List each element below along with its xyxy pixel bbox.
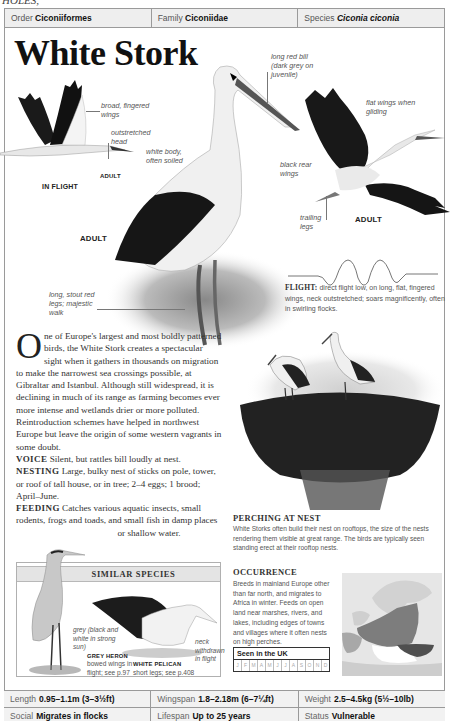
voice-text: Silent, but rattles bill loudly at nest. <box>50 454 181 464</box>
drop-cap: O <box>16 332 42 360</box>
month-cell: N <box>314 660 322 671</box>
caption-adult-standing: ADULT <box>80 234 107 243</box>
month-cell: F <box>242 660 250 671</box>
family-cell: Family Ciconiidae <box>152 9 299 27</box>
status-label: Status <box>305 711 329 721</box>
pelican-desc: short legs; see p.408 <box>133 668 213 677</box>
month-cell: A <box>258 660 266 671</box>
taxonomy-band: Order Ciconiiformes Family Ciconiidae Sp… <box>4 8 445 28</box>
stats-row: Length0.95–1.1m (3–3½ft) Wingspan1.8–2.1… <box>4 691 445 708</box>
lifespan-cell: LifespanUp to 25 years <box>151 708 298 721</box>
pelican-name: WHITE PELICAN <box>133 661 181 667</box>
leader-line <box>267 72 268 104</box>
top-cropped-text: HOLES, <box>0 0 459 7</box>
label-black-rear-wings: black rear wings <box>280 160 315 178</box>
stats-row: SocialMigrates in flocks LifespanUp to 2… <box>4 708 445 721</box>
species-cell: Species Ciconia ciconia <box>298 9 444 27</box>
pelican-note: neck withdrawn in flight <box>195 638 225 664</box>
month-cell: J <box>282 660 290 671</box>
weight-value: 2.5–4.5kg (5½–10lb) <box>334 694 414 704</box>
wingspan-label: Wingspan <box>157 694 195 704</box>
perching-text: White Storks often build their nest on r… <box>233 524 448 553</box>
month-cell: J <box>274 660 282 671</box>
grey-heron-illustration <box>25 545 85 675</box>
cropped-heading: HOLES, <box>2 0 39 6</box>
order-value: Ciconiiformes <box>35 13 92 23</box>
species-description: One of Europe's largest and most boldly … <box>16 330 222 539</box>
month-cell: O <box>306 660 314 671</box>
lifespan-value: Up to 25 years <box>192 711 250 721</box>
range-map <box>342 573 442 676</box>
species-value: Ciconia ciconia <box>337 13 399 23</box>
label-white-body: white body, often soiled <box>146 147 196 165</box>
month-cell: J <box>234 660 242 671</box>
length-label: Length <box>10 694 36 704</box>
caption-in-flight: IN FLIGHT <box>42 183 78 190</box>
wingspan-cell: Wingspan1.8–2.18m (6–7¼ft) <box>151 691 298 707</box>
wingspan-value: 1.8–2.18m (6–7¼ft) <box>198 694 274 704</box>
social-label: Social <box>10 711 33 721</box>
family-value: Ciconiidae <box>185 13 228 23</box>
flight-label: FLIGHT: <box>285 283 318 292</box>
family-label: Family <box>158 13 183 23</box>
perching-title: PERCHING AT NEST <box>233 513 321 523</box>
month-cell: D <box>322 660 329 671</box>
heron-note: grey (black and white in strong sun) <box>73 626 123 652</box>
order-cell: Order Ciconiiformes <box>5 9 152 27</box>
intro-paragraph: ne of Europe's largest and most boldly p… <box>16 331 221 452</box>
month-cell: M <box>266 660 274 671</box>
seen-in-uk-label: Seen in the UK <box>234 648 329 660</box>
similar-species-box: SIMILAR SPECIES grey (black and white in… <box>16 562 221 677</box>
feeding-label: FEEDING <box>16 503 60 513</box>
length-cell: Length0.95–1.1m (3–3½ft) <box>4 691 151 707</box>
social-cell: SocialMigrates in flocks <box>4 708 151 721</box>
standing-stork-illustration <box>95 55 305 345</box>
status-value: Vulnerable <box>332 711 375 721</box>
flight-description: FLIGHT: direct flight low, on long, flat… <box>285 283 445 315</box>
occurrence-text: Breeds in mainland Europe other than far… <box>233 579 333 647</box>
month-cell: A <box>290 660 298 671</box>
heron-name: GREY HERON <box>87 653 128 659</box>
social-value: Migrates in flocks <box>36 711 108 721</box>
caption-adult-flight: ADULT <box>355 215 382 224</box>
label-long-legs: long, stout red legs; majestic walk <box>49 290 104 317</box>
weight-label: Weight <box>305 694 331 704</box>
europe-range-map <box>342 573 442 676</box>
label-long-red-bill: long red bill (dark grey on juvenile) <box>271 52 321 79</box>
leader-line <box>97 309 185 310</box>
nesting-label: NESTING <box>16 466 59 476</box>
voice-label: VOICE <box>16 454 47 464</box>
order-label: Order <box>11 13 33 23</box>
seen-in-uk-box: Seen in the UK J F M A M J J A S O N D <box>233 647 330 672</box>
feeding-text-tail: or shallow water. <box>16 527 222 539</box>
label-flat-wings: flat wings when gliding <box>366 98 426 116</box>
month-cell: S <box>298 660 306 671</box>
weight-cell: Weight2.5–4.5kg (5½–10lb) <box>299 691 445 707</box>
month-strip: J F M A M J J A S O N D <box>234 660 329 671</box>
occurrence-title: OCCURRENCE <box>233 567 297 577</box>
leader-line <box>326 196 327 220</box>
month-cell: M <box>250 660 258 671</box>
perching-at-nest-photo <box>240 320 450 510</box>
lifespan-label: Lifespan <box>157 711 189 721</box>
status-cell: StatusVulnerable <box>299 708 445 721</box>
stats-table: Length0.95–1.1m (3–3½ft) Wingspan1.8–2.1… <box>4 690 445 721</box>
species-label: Species <box>304 13 334 23</box>
length-value: 0.95–1.1m (3–3½ft) <box>39 694 115 704</box>
label-trailing-legs: trailing legs <box>300 213 325 231</box>
